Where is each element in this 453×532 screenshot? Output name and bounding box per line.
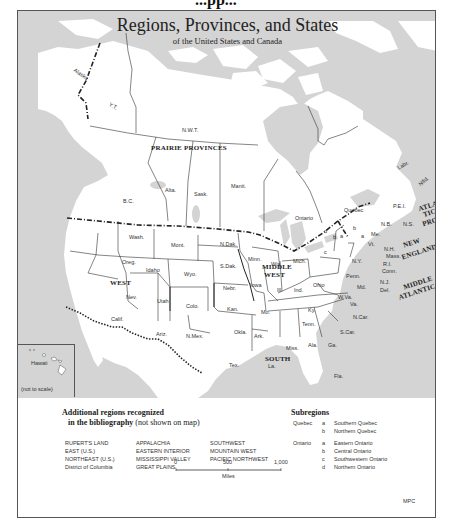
label-ga: Ga. <box>328 342 337 348</box>
label-bc: B.C. <box>123 198 134 204</box>
label-ind: Ind. <box>294 287 303 293</box>
subregion-name: Northern Ontario <box>334 464 375 470</box>
label-md: Md. <box>357 284 366 290</box>
label-del: Del. <box>380 287 390 293</box>
cropped-page-heading: ...pp... <box>195 0 237 9</box>
region-label-midwest-2: WEST <box>264 271 285 279</box>
subregion-key: b <box>322 428 325 434</box>
label-penn: Penn. <box>346 273 360 279</box>
label-la: La. <box>268 363 276 369</box>
label-nh: N.H. <box>384 246 395 252</box>
label-utah: Utah <box>157 298 169 304</box>
label-nmex: N.Mex. <box>186 333 203 339</box>
subregion-key: a <box>322 440 325 446</box>
subregion-key: c <box>322 456 325 462</box>
label-ny: N.Y. <box>352 258 362 264</box>
label-ndak: N.Dak. <box>220 241 237 247</box>
label-ky: Ky. <box>308 307 316 313</box>
subregion-name: Southwestern Ontario <box>334 456 387 462</box>
label-oreg: Oreg. <box>122 259 136 265</box>
scale-tick-500: 500 <box>223 459 232 465</box>
label-nj: N.J. <box>380 279 390 285</box>
label-kan: Kan. <box>227 306 238 312</box>
label-minn: Minn. <box>248 256 261 262</box>
region-item: SOUTHWEST <box>210 439 268 447</box>
region-item: EAST (U.S.) <box>65 447 115 455</box>
label-ri: R.I. <box>383 261 392 267</box>
label-va: Va. <box>350 301 358 307</box>
subregions-heading: Subregions <box>291 408 329 417</box>
label-ala: Ala. <box>308 342 317 348</box>
label-ontario-sub-a: a <box>340 233 343 239</box>
subregion-key: b <box>322 448 325 454</box>
additional-regions-heading: Additional regions recognized in the bib… <box>62 408 200 428</box>
label-maine: Me. <box>371 231 380 237</box>
scale-tick-0: 0 <box>174 459 177 465</box>
label-ohio: Ohio <box>313 282 325 288</box>
label-miss: Miss. <box>286 345 299 351</box>
additional-regions-heading-line2: in the bibliography (not shown on map) <box>62 418 200 428</box>
subregion-name: Southern Quebec <box>334 420 377 426</box>
label-ontario: Ontario <box>295 215 313 221</box>
additional-regions-column-1: RUPERT'S LAND EAST (U.S.) NORTHEAST (U.S… <box>65 439 115 471</box>
label-ncar: N.Car. <box>353 314 369 320</box>
label-ontario-sub-b: b <box>333 234 336 240</box>
subregion-province-quebec: Quebec <box>293 420 312 426</box>
cropped-heading-text: ...pp... <box>195 0 237 8</box>
scale-bar: 0 500 1,000 Miles <box>152 456 312 486</box>
region-item: District of Columbia <box>65 463 115 471</box>
region-label-prairie-provinces: PRAIRIE PROVINCES <box>151 144 227 152</box>
map-figure: Regions, Provinces, and States of the Un… <box>17 10 436 518</box>
label-conn: Conn. <box>382 268 397 274</box>
label-okla: Okla. <box>234 329 247 335</box>
region-item: EASTERN INTERIOR <box>136 447 191 455</box>
label-ariz: Ariz. <box>156 331 167 337</box>
label-sask: Sask. <box>194 191 208 197</box>
scale-unit: Miles <box>222 473 235 479</box>
map-panel: Regions, Provinces, and States of the Un… <box>18 11 436 398</box>
label-nebr: Nebr. <box>223 285 236 291</box>
label-manit: Manit. <box>231 183 246 189</box>
subregion-key: a <box>322 420 325 426</box>
subregion-name: Central Ontario <box>334 448 371 454</box>
subregion-name: Northern Quebec <box>334 428 376 434</box>
label-ontario-sub-c: c <box>324 249 327 255</box>
label-mass: Mass. <box>386 253 401 259</box>
label-ill: Ill. <box>277 287 283 293</box>
label-tenn: Tenn. <box>302 321 315 327</box>
label-sdak: S.Dak. <box>220 263 237 269</box>
map-title: Regions, Provinces, and States <box>18 15 436 36</box>
region-item: APPALACHIA <box>136 439 191 447</box>
additional-regions-heading-text: in the bibliography <box>68 418 133 427</box>
label-tex: Tex. <box>229 362 239 368</box>
label-mont: Mont. <box>171 242 185 248</box>
map-subtitle: of the United States and Canada <box>18 36 436 46</box>
label-mich: Mich. <box>293 258 306 264</box>
label-nev: Nev. <box>126 294 137 300</box>
label-ontario-sub-d: d <box>324 228 327 234</box>
label-idaho: Idaho <box>146 267 160 273</box>
label-wyo: Wyo. <box>184 271 196 277</box>
label-alta: Alta. <box>165 187 176 193</box>
label-quebec-sub-a: a <box>361 233 364 239</box>
label-colo: Colo. <box>186 303 199 309</box>
label-wis: Wis. <box>271 261 282 267</box>
label-pei: P.E.I. <box>393 203 406 209</box>
label-ark: Ark. <box>254 333 264 339</box>
label-mo: Mo. <box>261 309 270 315</box>
label-fla: Fla. <box>334 373 343 379</box>
label-not-to-scale: (not to scale) <box>21 386 53 392</box>
subregion-name: Eastern Ontario <box>334 440 373 446</box>
scale-tick-1000: 1,000 <box>274 459 288 465</box>
label-calif: Calif. <box>111 316 124 322</box>
label-iowa: Iowa <box>250 282 262 288</box>
label-wash: Wash. <box>129 234 144 240</box>
label-vt: Vt. <box>368 241 375 247</box>
label-nb: N.B. <box>381 221 392 227</box>
label-quebec-sub-b: b <box>353 225 356 231</box>
hawaii-inset: Hawaii (not to scale) <box>18 344 75 397</box>
subregion-province-ontario: Ontario <box>293 440 311 446</box>
label-hawaii: Hawaii <box>31 360 48 366</box>
region-label-south: SOUTH <box>265 355 291 363</box>
label-scar: S.Car. <box>340 329 355 335</box>
